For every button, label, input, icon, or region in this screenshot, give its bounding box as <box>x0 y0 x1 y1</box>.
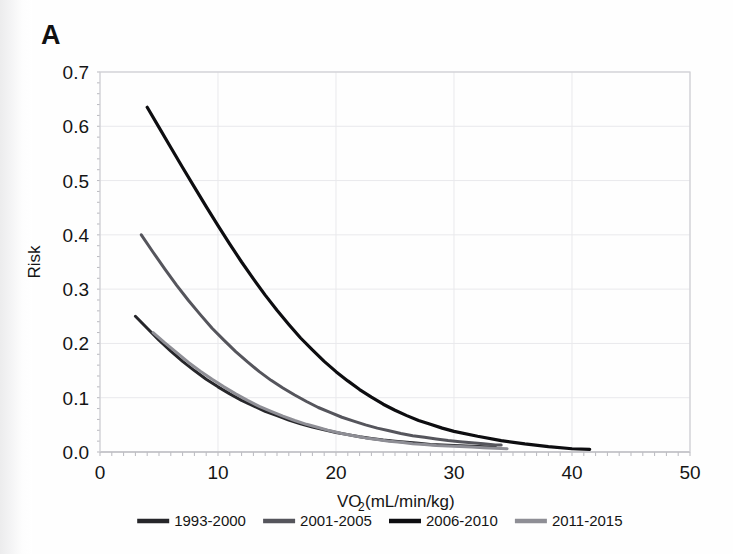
x-tick-label: 40 <box>561 462 582 483</box>
x-tick-label: 10 <box>207 462 228 483</box>
axis-tick-marks <box>97 72 690 456</box>
legend-item-2011-2015[interactable]: 2011-2015 <box>515 512 623 529</box>
risk-vs-vo2-line-chart: 01020304050 0.00.10.20.30.40.50.60.7 Ris… <box>0 0 733 554</box>
y-axis-tick-labels: 0.00.10.20.30.40.50.60.7 <box>63 62 90 463</box>
y-tick-label: 0.4 <box>63 225 90 246</box>
grid-lines <box>100 72 690 452</box>
legend-label: 1993-2000 <box>174 512 246 529</box>
legend-label: 2006-2010 <box>426 512 498 529</box>
legend-item-1993-2000[interactable]: 1993-2000 <box>137 512 246 529</box>
x-tick-label: 20 <box>325 462 346 483</box>
y-tick-label: 0.2 <box>63 333 89 354</box>
legend-label: 2011-2015 <box>552 512 623 529</box>
plot-frame <box>100 72 690 452</box>
chart-legend: 1993-20002001-20052006-20102011-2015 <box>137 512 622 529</box>
x-tick-label: 30 <box>443 462 464 483</box>
legend-item-2001-2005[interactable]: 2001-2005 <box>263 512 372 529</box>
y-tick-label: 0.0 <box>63 442 89 463</box>
series-line-2001-2005 <box>141 235 501 445</box>
x-axis-title-units: (mL/min/kg) <box>365 492 455 511</box>
legend-item-2006-2010[interactable]: 2006-2010 <box>389 512 498 529</box>
y-tick-label: 0.3 <box>63 279 89 300</box>
x-axis-tick-labels: 01020304050 <box>95 462 701 483</box>
figure-panel-a: A 01020304050 0.00.10.20.30.40.50.60.7 R… <box>0 0 733 554</box>
x-axis-title: VO 2 (mL/min/kg) <box>337 492 455 514</box>
y-tick-label: 0.5 <box>63 171 89 192</box>
y-tick-label: 0.7 <box>63 62 89 83</box>
y-axis-title: Risk <box>25 245 44 279</box>
y-tick-label: 0.1 <box>63 388 89 409</box>
x-tick-label: 50 <box>679 462 700 483</box>
legend-label: 2001-2005 <box>300 512 372 529</box>
x-tick-label: 0 <box>95 462 106 483</box>
y-tick-label: 0.6 <box>63 116 89 137</box>
